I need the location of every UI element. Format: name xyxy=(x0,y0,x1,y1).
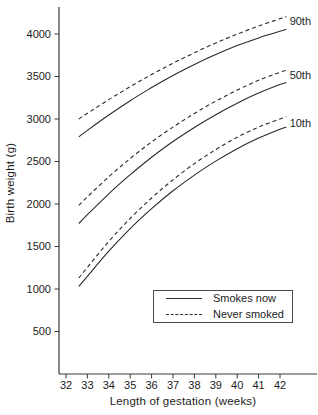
solid-line-sample-icon xyxy=(166,298,202,299)
birthweight-gestation-chart: 5001000150020002500300035004000323334353… xyxy=(0,0,318,415)
chart-canvas: 5001000150020002500300035004000323334353… xyxy=(0,0,318,415)
y-tick-label: 1000 xyxy=(27,283,51,295)
y-tick-label: 4000 xyxy=(27,28,51,40)
y-tick-label: 2500 xyxy=(27,155,51,167)
percentile-label-50th: 50th xyxy=(290,69,311,81)
dashed-line-sample-icon xyxy=(166,314,202,315)
curve-90th-never-smoked xyxy=(79,17,287,119)
x-tick-label: 36 xyxy=(145,379,157,391)
x-tick-label: 35 xyxy=(124,379,136,391)
y-tick-label: 500 xyxy=(33,325,51,337)
x-tick-label: 32 xyxy=(60,379,72,391)
y-tick-label: 2000 xyxy=(27,198,51,210)
x-tick-label: 34 xyxy=(103,379,115,391)
legend-item-smokes-now: Smokes now xyxy=(154,292,292,305)
x-tick-label: 39 xyxy=(210,379,222,391)
x-tick-label: 41 xyxy=(252,379,264,391)
x-tick-label: 33 xyxy=(81,379,93,391)
x-tick-label: 37 xyxy=(167,379,179,391)
y-tick-label: 1500 xyxy=(27,240,51,252)
x-axis-title: Length of gestation (weeks) xyxy=(59,395,307,407)
x-tick-label: 42 xyxy=(274,379,286,391)
legend-label-smokes-now: Smokes now xyxy=(213,292,276,305)
y-axis-title: Birth weight (g) xyxy=(4,133,18,233)
x-tick-label: 40 xyxy=(231,379,243,391)
curve-50th-never-smoked xyxy=(79,70,287,205)
y-tick-label: 3500 xyxy=(27,70,51,82)
legend-item-never-smoked: Never smoked xyxy=(154,308,292,321)
curve-50th-smokes-now xyxy=(79,83,287,224)
x-tick-label: 38 xyxy=(188,379,200,391)
y-tick-label: 3000 xyxy=(27,113,51,125)
percentile-label-10th: 10th xyxy=(290,117,311,129)
percentile-label-90th: 90th xyxy=(290,15,311,27)
legend: Smokes now Never smoked xyxy=(153,290,293,323)
curve-10th-smokes-now xyxy=(79,127,287,286)
curve-10th-never-smoked xyxy=(79,117,287,278)
legend-label-never-smoked: Never smoked xyxy=(213,308,284,321)
